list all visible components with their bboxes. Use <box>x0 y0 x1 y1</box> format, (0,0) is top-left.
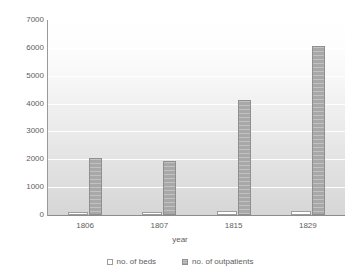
legend-swatch-beds-icon <box>107 259 113 265</box>
x-axis-tick-label: 1815 <box>197 221 271 230</box>
y-axis-tick-label: 6000 <box>4 44 44 52</box>
y-axis-tick-label: 2000 <box>4 155 44 163</box>
legend-item-beds[interactable]: no. of beds <box>107 257 157 266</box>
bar-group <box>197 20 271 215</box>
y-axis-tick-label: 1000 <box>4 183 44 191</box>
y-axis-tick-label: 3000 <box>4 127 44 135</box>
legend-label: no. of outpatients <box>192 257 253 266</box>
y-axis-tick-label: 0 <box>4 211 44 219</box>
plot-area <box>48 20 345 215</box>
bar-outpatients <box>89 158 102 215</box>
y-axis-line <box>47 20 48 216</box>
x-axis-line <box>48 215 345 216</box>
x-axis-title: year <box>0 235 360 244</box>
bar-group <box>48 20 122 215</box>
y-axis-tick-label: 7000 <box>4 16 44 24</box>
x-axis-tick-label: 1829 <box>271 221 345 230</box>
bar-outpatients <box>238 100 251 215</box>
x-axis-tick-label: 1806 <box>48 221 122 230</box>
y-axis-tick-label: 5000 <box>4 72 44 80</box>
y-axis-tick-label: 4000 <box>4 100 44 108</box>
x-axis-tick-label: 1807 <box>122 221 196 230</box>
legend-item-outpatients[interactable]: no. of outpatients <box>182 257 253 266</box>
legend-label: no. of beds <box>117 257 157 266</box>
bar-outpatients <box>312 46 325 215</box>
chart-legend: no. of bedsno. of outpatients <box>0 257 360 266</box>
legend-swatch-outpatients-icon <box>182 259 188 265</box>
bar-chart: 01000200030004000500060007000 1806180718… <box>0 0 360 278</box>
bar-outpatients <box>163 161 176 215</box>
bar-group <box>122 20 196 215</box>
bar-group <box>271 20 345 215</box>
